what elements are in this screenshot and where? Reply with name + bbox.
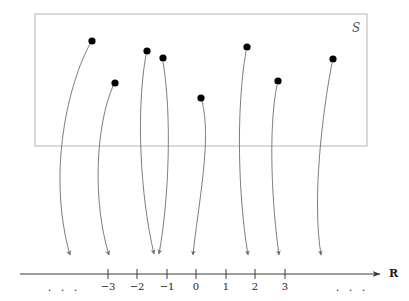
point-1 [88,37,95,44]
axis-label-r: R [389,268,398,279]
point-3 [143,47,150,54]
tick-label-zero: 0 [193,282,199,292]
figure-canvas: S R −3 −2 −1 0 1 2 3 . . . . . . [0,0,409,301]
mapping-arrows [60,44,332,255]
mapping-arrow-8 [317,63,332,255]
tick-label-three: 3 [282,282,288,292]
mapping-arrow-7 [272,85,279,255]
mapping-arrow-4 [159,62,168,254]
tick-label-minus1: −1 [160,282,175,292]
point-8 [329,55,336,62]
tick-label-minus3: −3 [101,282,116,292]
axis-ellipsis-left: . . . [48,282,80,293]
set-points [88,37,336,101]
mapping-arrow-2 [98,86,113,255]
diagram-svg [0,0,409,301]
point-2 [111,79,118,86]
mapping-arrow-3 [140,55,154,254]
mapping-arrow-5 [193,101,206,255]
point-5 [197,94,204,101]
tick-label-minus2: −2 [130,282,145,292]
point-7 [274,77,281,84]
mapping-arrow-1 [60,44,90,255]
point-4 [159,54,166,61]
tick-label-one: 1 [223,282,229,292]
point-6 [243,43,250,50]
set-box-rect [35,14,367,146]
axis-ellipsis-right: . . . [336,282,368,293]
set-label-s: S [352,22,360,34]
tick-label-two: 2 [252,282,258,292]
mapping-arrow-6 [239,51,248,255]
